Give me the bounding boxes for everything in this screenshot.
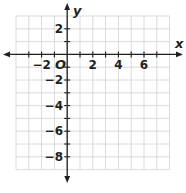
coordinate-plane: x y O −2 2 4 6 2 −2 −4 −6 −8 — [0, 0, 186, 193]
x-axis-label: x — [174, 36, 184, 51]
origin-label: O — [55, 57, 66, 72]
y-tick-label-neg8: −8 — [45, 150, 63, 164]
y-tick-label-2: 2 — [55, 22, 63, 36]
x-axis-right-arrow-icon — [176, 52, 183, 58]
y-axis-up-arrow-icon — [64, 3, 70, 10]
x-tick-label-4: 4 — [114, 58, 122, 72]
y-tick-label-neg4: −4 — [45, 99, 63, 113]
x-tick-label-2: 2 — [89, 58, 97, 72]
y-axis-label: y — [73, 3, 82, 18]
x-tick-label-neg2: −2 — [32, 58, 50, 72]
grid-lines — [16, 16, 170, 170]
x-tick-label-6: 6 — [140, 58, 148, 72]
x-axis-left-arrow-icon — [3, 52, 10, 58]
y-axis-down-arrow-icon — [64, 176, 70, 183]
y-tick-label-neg6: −6 — [45, 124, 63, 138]
y-tick-label-neg2: −2 — [45, 73, 63, 87]
